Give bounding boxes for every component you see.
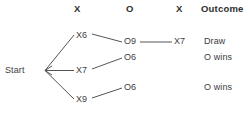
node-o6-branch3: O6 — [124, 82, 136, 92]
column-header-x-1: X — [74, 3, 81, 14]
outcome-o-wins-1: O wins — [204, 52, 232, 62]
outcome-o-wins-2: O wins — [204, 82, 232, 92]
column-header-x-2: X — [176, 3, 183, 14]
node-x7-branch2: X7 — [76, 65, 87, 75]
start-node-label: Start — [5, 65, 25, 75]
game-tree-diagram: X O X Outcome Start X6 O9 X7 X7 O6 X9 O6… — [0, 0, 250, 119]
node-o9: O9 — [124, 36, 136, 46]
edge-start-x9 — [45, 71, 74, 100]
column-header-o: O — [126, 3, 134, 14]
edge-x9-o6 — [92, 88, 122, 98]
node-x9: X9 — [76, 94, 87, 104]
node-x7-branch1: X7 — [174, 36, 185, 46]
column-header-outcome: Outcome — [201, 3, 244, 14]
edge-start-x6 — [45, 35, 74, 71]
node-o6-branch2: O6 — [124, 52, 136, 62]
node-x6: X6 — [76, 30, 87, 40]
edge-x6-o9 — [92, 34, 122, 42]
outcome-draw: Draw — [204, 36, 225, 46]
edge-x7-o6 — [92, 58, 122, 69]
